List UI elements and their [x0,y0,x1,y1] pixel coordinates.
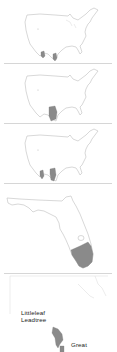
species-label-littleleaf: Littleleaf [21,309,45,316]
lake-okeechobee [78,236,84,241]
range-patch [71,242,93,268]
us-outline-map [0,64,117,123]
range-patch [53,53,57,61]
us-outline-map [0,124,117,183]
range-patch [41,51,45,58]
range-patch [40,170,44,179]
species-label-leadtree: Leadtree [21,316,46,323]
range-patch [60,346,64,352]
map-dot [37,89,38,90]
species-label-great: Great [71,341,87,348]
texas-detail-map [0,274,117,352]
range-patch [50,168,56,181]
florida-outline-map [0,184,117,273]
range-map-us-1 [0,0,117,63]
range-patch [52,327,63,348]
range-patch [49,106,57,121]
range-map-detail: Littleleaf Leadtree Great [0,274,117,352]
range-map-us-2 [0,64,117,123]
range-map-us-3 [0,124,117,183]
us-outline-map [0,0,117,63]
map-dot [37,28,38,29]
map-dot [37,149,38,150]
range-map-florida [0,184,117,273]
